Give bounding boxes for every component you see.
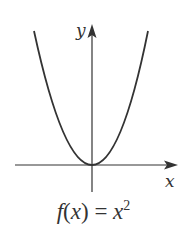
caption-equals: =: [89, 199, 113, 224]
y-axis-label: y: [75, 20, 86, 40]
x-axis-label: x: [165, 171, 175, 191]
caption-exponent: 2: [123, 198, 130, 213]
function-caption: f(x) = x2: [0, 198, 187, 225]
caption-base: x: [113, 199, 123, 224]
parabola-curve: [34, 31, 148, 165]
caption-arg: (x): [63, 199, 89, 224]
